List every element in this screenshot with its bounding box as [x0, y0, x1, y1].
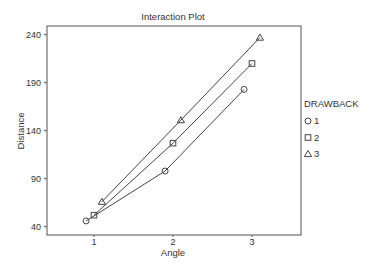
x-tick-label: 3	[249, 237, 254, 247]
legend-item-3: 3	[304, 148, 319, 159]
circle-marker-icon	[305, 118, 311, 124]
plot-area-frame	[47, 26, 301, 235]
series-2	[91, 61, 255, 218]
x-tick-label: 1	[91, 237, 96, 247]
triangle-marker-icon	[256, 34, 263, 40]
chart-title: Interaction Plot	[141, 11, 205, 22]
triangle-marker-icon	[304, 151, 311, 157]
legend: DRAWBACK 123	[304, 98, 359, 159]
series-line	[94, 64, 252, 216]
legend-item-label: 1	[314, 115, 319, 126]
x-axis-label: Angle	[161, 247, 185, 258]
y-tick-label: 240	[26, 30, 41, 40]
x-axis: 123	[91, 235, 254, 247]
y-axis-label: Distance	[15, 113, 26, 150]
y-tick-label: 90	[31, 174, 41, 184]
series-line	[102, 38, 260, 202]
legend-item-1: 1	[305, 115, 319, 126]
chart-canvas: Interaction Plot 4090140190240 123 Dista…	[0, 0, 371, 271]
legend-item-label: 3	[314, 148, 319, 159]
interaction-plot-chart: Interaction Plot 4090140190240 123 Dista…	[0, 0, 371, 271]
y-tick-label: 190	[26, 78, 41, 88]
series-3	[98, 34, 263, 204]
y-tick-label: 140	[26, 126, 41, 136]
square-marker-icon	[305, 135, 311, 141]
x-tick-label: 2	[170, 237, 175, 247]
y-axis: 4090140190240	[26, 30, 47, 232]
y-tick-label: 40	[31, 222, 41, 232]
series-layer	[83, 34, 263, 224]
legend-item-2: 2	[305, 132, 319, 143]
legend-item-label: 2	[314, 132, 319, 143]
legend-title: DRAWBACK	[304, 98, 359, 109]
